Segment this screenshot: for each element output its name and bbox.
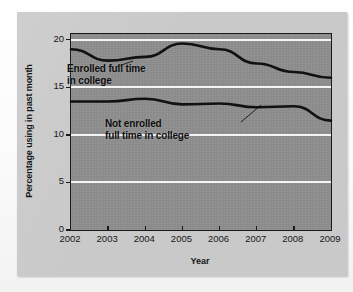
x-axis-title: Year bbox=[70, 256, 330, 266]
x-axis-tick-labels: 20022003200420052006200720082009 bbox=[70, 233, 330, 247]
annotation-not-enrolled-line2: full time in college bbox=[105, 130, 189, 142]
x-axis-tick-label: 2003 bbox=[87, 233, 127, 244]
annotation-not-enrolled-full-time: Not enrolled full time in college bbox=[105, 118, 189, 141]
x-axis-tick-label: 2009 bbox=[310, 233, 350, 244]
x-axis-tick-label: 2008 bbox=[273, 233, 313, 244]
x-axis-tick-label: 2004 bbox=[124, 233, 164, 244]
x-axis-tick-label: 2002 bbox=[50, 233, 90, 244]
x-axis-tick-label: 2006 bbox=[199, 233, 239, 244]
x-axis-tick-label: 2005 bbox=[161, 233, 201, 244]
y-axis-title: Percentage using in past month bbox=[22, 33, 36, 229]
y-axis-tick-label: 20 bbox=[42, 33, 64, 44]
annotation-enrolled-line1: Enrolled full time bbox=[67, 63, 145, 75]
y-axis-tick-label: 5 bbox=[42, 175, 64, 186]
y-axis-tick-label: 10 bbox=[42, 128, 64, 139]
y-axis-tick-label: 15 bbox=[42, 80, 64, 91]
chart-screenshot: Percentage using in past month 05101520 … bbox=[0, 0, 353, 292]
annotation-not-enrolled-line1: Not enrolled bbox=[105, 118, 189, 130]
x-axis-tick-label: 2007 bbox=[236, 233, 276, 244]
annotation-enrolled-line2: in college bbox=[67, 75, 145, 87]
annotation-enrolled-full-time: Enrolled full time in college bbox=[67, 63, 145, 86]
